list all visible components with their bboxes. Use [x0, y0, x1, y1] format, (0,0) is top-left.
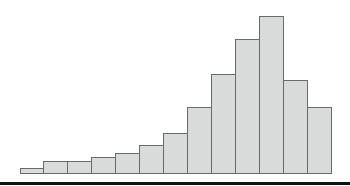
histogram-bar — [235, 39, 260, 174]
histogram-bar — [163, 133, 188, 174]
histogram-bar — [67, 161, 92, 174]
histogram-bar — [283, 80, 308, 174]
x-axis-line — [0, 182, 350, 185]
histogram-bar — [211, 74, 236, 174]
histogram-bar — [91, 157, 116, 174]
histogram-bar — [187, 107, 212, 174]
histogram-bar — [115, 153, 140, 174]
histogram-chart — [0, 0, 350, 186]
histogram-bar — [43, 161, 68, 174]
histogram-bar — [307, 107, 332, 174]
histogram-bar — [139, 145, 164, 174]
histogram-bar — [20, 168, 45, 174]
histogram-bar — [259, 16, 284, 174]
